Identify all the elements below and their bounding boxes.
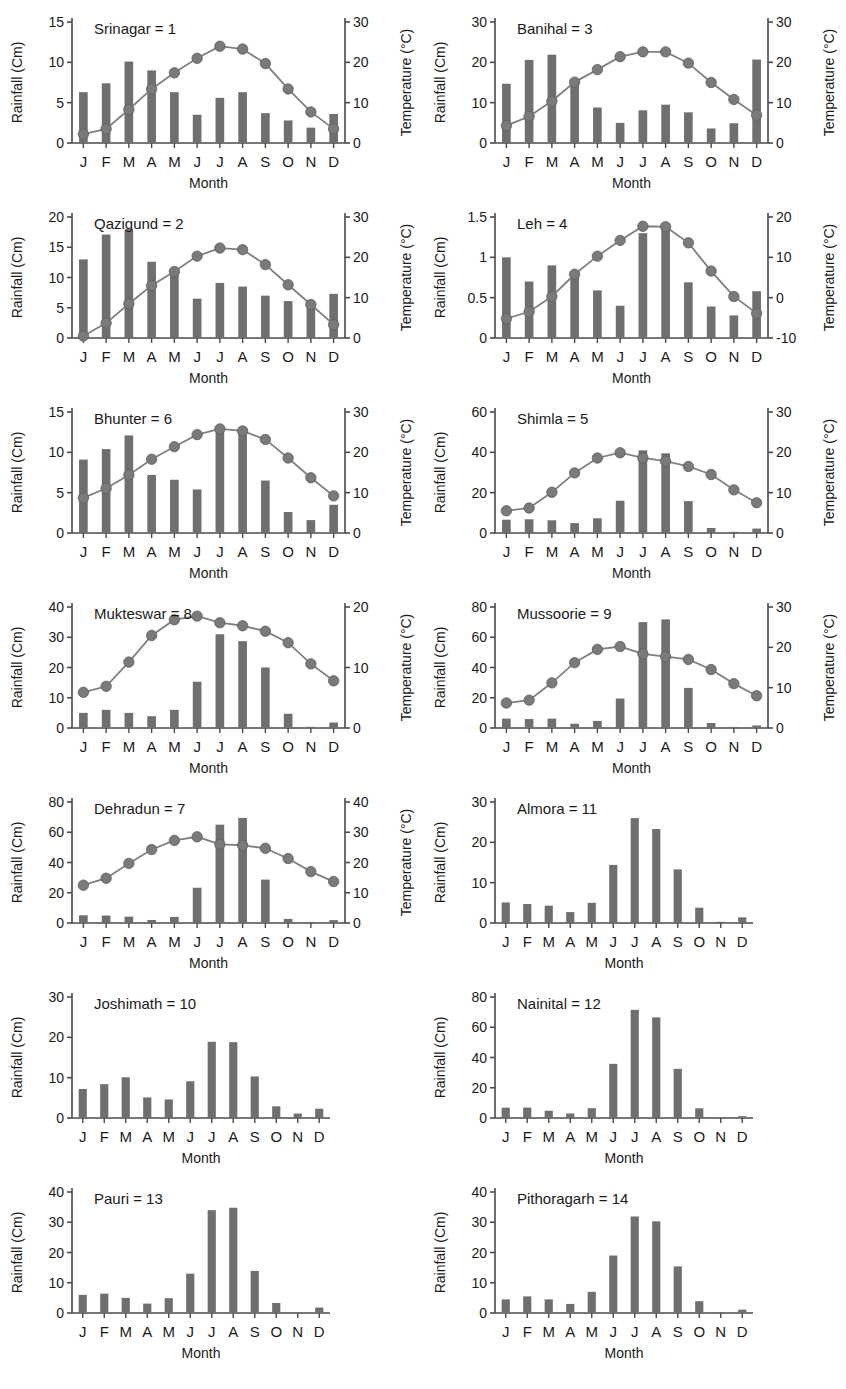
svg-text:O: O bbox=[270, 1128, 282, 1145]
svg-text:N: N bbox=[728, 348, 739, 365]
svg-text:10: 10 bbox=[48, 1070, 64, 1086]
svg-text:M: M bbox=[546, 348, 559, 365]
svg-text:Month: Month bbox=[605, 955, 644, 971]
svg-text:M: M bbox=[586, 1128, 599, 1145]
svg-text:A: A bbox=[228, 1128, 238, 1145]
svg-text:J: J bbox=[216, 738, 224, 755]
svg-text:A: A bbox=[142, 1323, 152, 1340]
svg-text:F: F bbox=[525, 738, 534, 755]
svg-text:30: 30 bbox=[48, 1214, 64, 1230]
chart-panel-banihal: 01020300102030JFMAMJJASONDMonthRainfall … bbox=[423, 0, 846, 195]
svg-text:0: 0 bbox=[479, 525, 487, 541]
svg-text:S: S bbox=[260, 153, 270, 170]
svg-text:J: J bbox=[503, 153, 511, 170]
svg-text:20: 20 bbox=[776, 444, 792, 460]
svg-text:A: A bbox=[651, 1128, 661, 1145]
svg-text:J: J bbox=[80, 738, 88, 755]
svg-text:40: 40 bbox=[471, 660, 487, 676]
svg-text:Pauri = 13: Pauri = 13 bbox=[94, 1190, 163, 1207]
svg-text:F: F bbox=[525, 348, 534, 365]
svg-text:Bhunter = 6: Bhunter = 6 bbox=[94, 410, 172, 427]
svg-text:J: J bbox=[616, 348, 624, 365]
svg-text:0: 0 bbox=[776, 525, 784, 541]
svg-text:Rainfall (Cm): Rainfall (Cm) bbox=[432, 237, 448, 319]
svg-text:M: M bbox=[168, 153, 181, 170]
svg-text:Rainfall (Cm): Rainfall (Cm) bbox=[9, 42, 25, 124]
svg-text:A: A bbox=[238, 738, 248, 755]
svg-text:M: M bbox=[591, 348, 604, 365]
svg-text:N: N bbox=[715, 933, 726, 950]
svg-text:60: 60 bbox=[471, 629, 487, 645]
svg-text:10: 10 bbox=[471, 875, 487, 891]
svg-text:Banihal = 3: Banihal = 3 bbox=[517, 20, 592, 37]
svg-text:D: D bbox=[751, 738, 762, 755]
svg-text:0: 0 bbox=[56, 720, 64, 736]
svg-text:N: N bbox=[305, 348, 316, 365]
svg-text:J: J bbox=[80, 543, 88, 560]
svg-text:J: J bbox=[503, 543, 511, 560]
svg-text:M: M bbox=[546, 153, 559, 170]
svg-text:A: A bbox=[147, 738, 157, 755]
svg-text:O: O bbox=[282, 348, 294, 365]
svg-text:A: A bbox=[661, 153, 671, 170]
svg-text:Rainfall (Cm): Rainfall (Cm) bbox=[432, 42, 448, 124]
svg-text:80: 80 bbox=[48, 794, 64, 810]
svg-text:10: 10 bbox=[48, 54, 64, 70]
svg-text:J: J bbox=[193, 933, 201, 950]
svg-text:J: J bbox=[193, 153, 201, 170]
svg-text:80: 80 bbox=[471, 599, 487, 615]
svg-text:M: M bbox=[543, 1128, 556, 1145]
svg-text:40: 40 bbox=[471, 444, 487, 460]
svg-text:S: S bbox=[673, 1323, 683, 1340]
svg-text:D: D bbox=[737, 1128, 748, 1145]
chart-panel-qazigund: 051015200102030JFMAMJJASONDMonthRainfall… bbox=[0, 195, 423, 390]
svg-text:Joshimath = 10: Joshimath = 10 bbox=[94, 995, 196, 1012]
svg-text:A: A bbox=[147, 153, 157, 170]
svg-text:A: A bbox=[570, 543, 580, 560]
svg-text:Temperature (°C): Temperature (°C) bbox=[821, 419, 837, 527]
svg-text:0: 0 bbox=[776, 720, 784, 736]
svg-text:Rainfall (Cm): Rainfall (Cm) bbox=[432, 1017, 448, 1099]
svg-text:30: 30 bbox=[48, 989, 64, 1005]
svg-text:A: A bbox=[661, 348, 671, 365]
svg-text:Almora = 11: Almora = 11 bbox=[517, 800, 597, 817]
svg-text:Dehradun = 7: Dehradun = 7 bbox=[94, 800, 185, 817]
svg-text:N: N bbox=[292, 1128, 303, 1145]
chart-panel-nainital: 020406080JFMAMJJASONDMonthRainfall (Cm)N… bbox=[423, 975, 846, 1170]
svg-text:A: A bbox=[147, 543, 157, 560]
svg-text:D: D bbox=[737, 933, 748, 950]
svg-text:0: 0 bbox=[353, 525, 361, 541]
svg-text:Temperature (°C): Temperature (°C) bbox=[398, 614, 414, 722]
svg-text:Mussoorie = 9: Mussoorie = 9 bbox=[517, 605, 612, 622]
svg-text:20: 20 bbox=[776, 209, 792, 225]
svg-text:D: D bbox=[751, 153, 762, 170]
svg-text:Temperature (°C): Temperature (°C) bbox=[398, 29, 414, 137]
svg-text:10: 10 bbox=[48, 1275, 64, 1291]
svg-text:Month: Month bbox=[189, 955, 228, 971]
svg-text:20: 20 bbox=[471, 54, 487, 70]
svg-text:A: A bbox=[570, 348, 580, 365]
svg-text:F: F bbox=[525, 153, 534, 170]
svg-text:Temperature (°C): Temperature (°C) bbox=[398, 419, 414, 527]
svg-text:30: 30 bbox=[471, 1214, 487, 1230]
svg-text:30: 30 bbox=[471, 794, 487, 810]
svg-text:0: 0 bbox=[479, 1110, 487, 1126]
svg-text:O: O bbox=[270, 1323, 282, 1340]
svg-text:A: A bbox=[570, 738, 580, 755]
svg-text:O: O bbox=[693, 1323, 705, 1340]
svg-text:Month: Month bbox=[189, 175, 228, 191]
svg-text:10: 10 bbox=[48, 690, 64, 706]
svg-text:D: D bbox=[328, 543, 339, 560]
svg-text:M: M bbox=[591, 738, 604, 755]
svg-text:J: J bbox=[79, 1323, 87, 1340]
svg-text:S: S bbox=[673, 933, 683, 950]
svg-text:Rainfall (Cm): Rainfall (Cm) bbox=[9, 627, 25, 709]
svg-text:S: S bbox=[260, 348, 270, 365]
svg-text:S: S bbox=[683, 153, 693, 170]
svg-text:O: O bbox=[705, 738, 717, 755]
svg-text:N: N bbox=[728, 543, 739, 560]
svg-text:Shimla = 5: Shimla = 5 bbox=[517, 410, 588, 427]
svg-text:M: M bbox=[543, 1323, 556, 1340]
svg-text:M: M bbox=[168, 543, 181, 560]
svg-text:10: 10 bbox=[353, 290, 369, 306]
